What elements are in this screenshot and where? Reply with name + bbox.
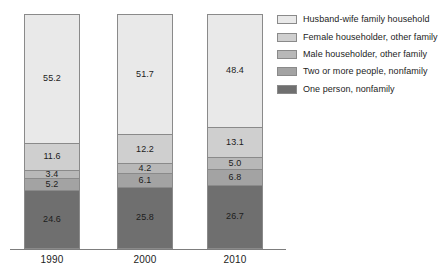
legend-item-label: Male householder, other family bbox=[303, 50, 427, 59]
bar-segment[interactable]: 6.1 bbox=[118, 174, 172, 188]
legend-item[interactable]: Female householder, other family bbox=[277, 28, 442, 45]
bar-segment[interactable]: 4.2 bbox=[118, 164, 172, 174]
bar-2000[interactable]: 51.712.24.26.125.8 bbox=[117, 14, 173, 249]
bar-segment-value-label: 13.1 bbox=[226, 138, 244, 147]
bar-segment-value-label: 5.0 bbox=[229, 159, 242, 168]
bar-segment[interactable]: 12.2 bbox=[118, 135, 172, 163]
bar-segment-value-label: 51.7 bbox=[136, 70, 154, 79]
bar-segment[interactable]: 26.7 bbox=[208, 186, 262, 248]
bar-segment-value-label: 6.8 bbox=[229, 173, 242, 182]
bar-segment[interactable]: 24.6 bbox=[25, 191, 79, 248]
axis-tick-label-2000: 2000 bbox=[117, 254, 173, 265]
bar-segment-value-label: 55.2 bbox=[43, 74, 61, 83]
legend-item-label: One person, nonfamily bbox=[303, 85, 395, 94]
bar-segment-value-label: 12.2 bbox=[136, 145, 154, 154]
bar-segment-value-label: 5.2 bbox=[46, 180, 59, 189]
bar-segment[interactable]: 5.2 bbox=[25, 179, 79, 191]
legend-swatch-icon bbox=[277, 50, 297, 59]
legend-item-label: Husband-wife family household bbox=[303, 15, 430, 24]
bar-segment[interactable]: 55.2 bbox=[25, 15, 79, 144]
bar-segment-value-label: 11.6 bbox=[43, 152, 60, 161]
legend-swatch-icon bbox=[277, 15, 297, 24]
legend-item[interactable]: Husband-wife family household bbox=[277, 11, 442, 28]
plot-area: 55.211.63.45.224.651.712.24.26.125.848.4… bbox=[0, 0, 300, 273]
bar-1990[interactable]: 55.211.63.45.224.6 bbox=[24, 14, 80, 249]
legend-item[interactable]: Two or more people, nonfamily bbox=[277, 63, 442, 80]
bar-segment-value-label: 48.4 bbox=[226, 66, 244, 75]
bar-2010[interactable]: 48.413.15.06.826.7 bbox=[207, 14, 263, 249]
legend-item-label: Female householder, other family bbox=[303, 33, 438, 42]
bar-segment[interactable]: 5.0 bbox=[208, 158, 262, 170]
bar-segment-value-label: 6.1 bbox=[139, 176, 152, 185]
legend-swatch-icon bbox=[277, 85, 297, 94]
bar-segment[interactable]: 3.4 bbox=[25, 171, 79, 179]
x-axis-line bbox=[10, 249, 286, 250]
legend-item[interactable]: Male householder, other family bbox=[277, 46, 442, 63]
bar-segment[interactable]: 51.7 bbox=[118, 15, 172, 135]
bar-segment[interactable]: 6.8 bbox=[208, 170, 262, 186]
bar-segment-value-label: 25.8 bbox=[136, 213, 154, 222]
bar-segment-value-label: 3.4 bbox=[46, 171, 59, 179]
bar-segment[interactable]: 11.6 bbox=[25, 144, 79, 171]
chart-legend: Husband-wife family householdFemale hous… bbox=[277, 11, 442, 98]
axis-tick-label-2010: 2010 bbox=[207, 254, 263, 265]
bar-segment-value-label: 24.6 bbox=[43, 215, 61, 224]
legend-swatch-icon bbox=[277, 33, 297, 42]
bar-segment[interactable]: 13.1 bbox=[208, 128, 262, 159]
bar-segment[interactable]: 48.4 bbox=[208, 15, 262, 128]
legend-swatch-icon bbox=[277, 67, 297, 76]
bar-segment[interactable]: 25.8 bbox=[118, 188, 172, 248]
bar-segment-value-label: 4.2 bbox=[139, 164, 152, 173]
bar-segment-value-label: 26.7 bbox=[226, 212, 244, 221]
legend-item[interactable]: One person, nonfamily bbox=[277, 81, 442, 98]
legend-item-label: Two or more people, nonfamily bbox=[303, 67, 428, 76]
axis-tick-label-1990: 1990 bbox=[24, 254, 80, 265]
stacked-bar-chart: 55.211.63.45.224.651.712.24.26.125.848.4… bbox=[0, 0, 442, 273]
